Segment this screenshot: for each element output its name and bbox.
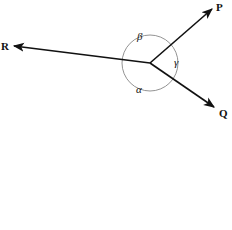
vector-p-arrow (150, 9, 212, 63)
label-p: P (216, 1, 223, 13)
label-beta: β (136, 30, 143, 42)
label-q: Q (219, 107, 228, 119)
vector-q-arrow (150, 63, 214, 107)
vector-r-arrow (14, 46, 150, 63)
label-gamma: γ (174, 56, 179, 68)
label-r: R (1, 40, 10, 52)
vector-diagram: P Q R β γ α (0, 0, 232, 230)
label-alpha: α (136, 83, 142, 95)
